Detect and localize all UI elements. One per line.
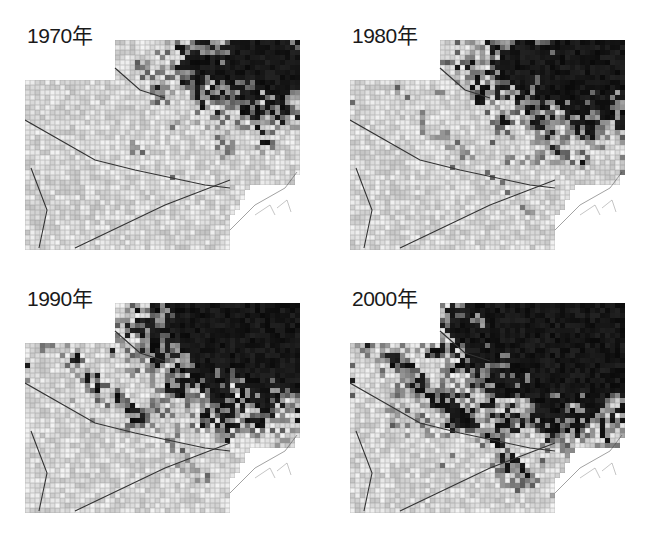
- year-label-1990: 1990年: [25, 283, 98, 314]
- map-panel-1970: 1970年: [25, 20, 301, 256]
- map-panel-1980: 1980年: [350, 20, 626, 256]
- year-label-1980: 1980年: [350, 20, 423, 51]
- year-label-2000: 2000年: [350, 283, 423, 314]
- raster-map-1980: [350, 20, 626, 256]
- map-panel-2000: 2000年: [350, 283, 626, 519]
- map-panel-1990: 1990年: [25, 283, 301, 519]
- raster-map-2000: [350, 283, 626, 519]
- raster-map-1990: [25, 283, 301, 519]
- year-label-1970: 1970年: [25, 20, 98, 51]
- raster-map-1970: [25, 20, 301, 256]
